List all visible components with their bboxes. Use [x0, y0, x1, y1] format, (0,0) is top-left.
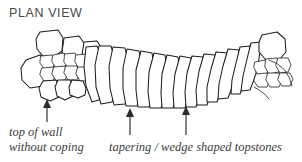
- caption-top-of-wall-line2: without coping: [9, 140, 84, 155]
- caption-top-of-wall: top of wall without coping: [9, 125, 84, 155]
- arrow-top-of-wall: [43, 99, 51, 122]
- arrow-tapering-left: [126, 108, 134, 135]
- right-stone-cluster: [231, 32, 293, 99]
- plan-view-figure: PLAN VIEW: [0, 0, 302, 162]
- arrow-tapering-right: [182, 106, 190, 135]
- stone-right-infill-f: [278, 73, 293, 86]
- topstone-arc: [84, 46, 239, 108]
- stone-upper-left-large: [36, 30, 63, 57]
- stone-upper-right-large: [259, 32, 286, 60]
- caption-tapering-topstones: tapering / wedge shaped topstones: [109, 140, 282, 155]
- wall-tail-line-lower: [254, 87, 269, 99]
- caption-top-of-wall-line1: top of wall: [9, 125, 84, 140]
- stone-lower-left-3: [69, 80, 86, 98]
- stone-right-infill-c: [276, 58, 291, 73]
